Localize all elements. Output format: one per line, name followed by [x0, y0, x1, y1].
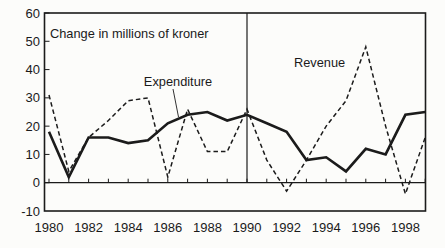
x-tick-label: 1998 [391, 220, 420, 235]
x-tick-label: 1990 [233, 220, 262, 235]
data-series-layer [49, 47, 425, 194]
chart-title: Change in millions of kroner [50, 26, 209, 41]
x-tick-label: 1980 [35, 220, 64, 235]
y-tick-label: 60 [26, 6, 40, 21]
plot-frame-layer [45, 13, 426, 211]
y-tick-label: 50 [26, 34, 40, 49]
x-tick-label: 1988 [193, 220, 222, 235]
line-chart-figure: 6050403020100-10198019821984198619881990… [0, 0, 445, 248]
y-tick-label: 30 [26, 90, 40, 105]
expenditure-leader-line [173, 89, 179, 117]
expenditure-line [49, 112, 425, 177]
y-tick-label: 10 [26, 147, 40, 162]
y-tick-label: 0 [33, 175, 40, 190]
series-label-expenditure: Expenditure [144, 74, 212, 89]
series-label-revenue: Revenue [294, 55, 345, 70]
x-tick-label: 1996 [351, 220, 380, 235]
plot-border [45, 13, 426, 211]
y-tick-label: 20 [26, 119, 40, 134]
x-tick-label: 1994 [312, 220, 341, 235]
y-tick-label: 40 [26, 62, 40, 77]
chart-canvas: 6050403020100-10198019821984198619881990… [0, 0, 445, 248]
y-tick-label: -10 [21, 204, 40, 219]
x-tick-label: 1986 [153, 220, 182, 235]
x-tick-label: 1992 [272, 220, 301, 235]
x-tick-label: 1982 [74, 220, 103, 235]
revenue-line [49, 47, 425, 194]
x-tick-label: 1984 [114, 220, 143, 235]
